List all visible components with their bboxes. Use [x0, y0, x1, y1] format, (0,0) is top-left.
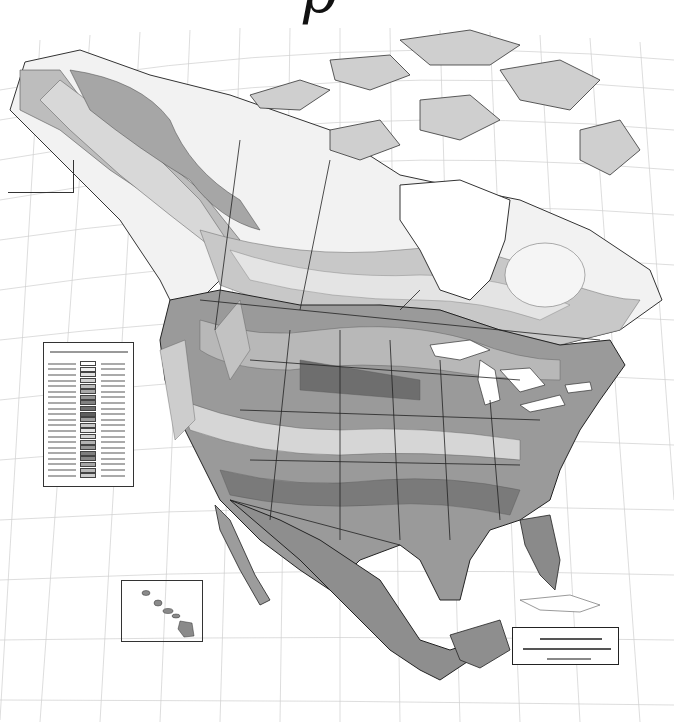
legend-temp-c [101, 441, 125, 443]
legend-temp-c [101, 396, 125, 398]
legend-temp-c [101, 458, 125, 460]
hawaii-inset [121, 580, 203, 642]
legend-temp-c [101, 463, 125, 465]
legend-temp-f [48, 469, 76, 471]
legend-swatch [80, 372, 96, 377]
legend-temp-c [101, 430, 125, 432]
legend-swatch [80, 428, 96, 433]
scale-bar [512, 627, 619, 665]
legend-temp-f [48, 436, 76, 438]
scale-bar-km [540, 638, 602, 640]
legend-swatch [80, 423, 96, 428]
legend-temp-f [48, 368, 76, 370]
legend-temp-c [101, 436, 125, 438]
legend-temp-f [48, 408, 76, 410]
legend-temp-c [101, 380, 125, 382]
legend-swatch [80, 417, 96, 422]
legend-temp-c [101, 385, 125, 387]
legend-temp-c [101, 391, 125, 393]
legend-swatch [80, 389, 96, 394]
legend-rows [48, 361, 130, 478]
legend-swatch [80, 468, 96, 473]
legend-temp-f [48, 475, 76, 477]
legend-temp-f [48, 430, 76, 432]
legend-row [48, 473, 130, 479]
legend-temp-c [101, 452, 125, 454]
legend-temp-c [101, 419, 125, 421]
legend-swatch [80, 434, 96, 439]
florida [520, 515, 560, 590]
legend-temp-f [48, 413, 76, 415]
legend-temp-c [101, 408, 125, 410]
legend-swatch [80, 451, 96, 456]
legend-temp-f [48, 463, 76, 465]
legend-temp-f [48, 363, 76, 365]
legend-temp-f [48, 441, 76, 443]
legend-temp-c [101, 469, 125, 471]
legend-swatch [80, 400, 96, 405]
legend-temp-f [48, 385, 76, 387]
legend-swatch [80, 367, 96, 372]
legend-swatch [80, 406, 96, 411]
legend-temp-c [101, 424, 125, 426]
legend-temp-f [48, 391, 76, 393]
legend-swatch [80, 384, 96, 389]
legend [43, 342, 134, 487]
legend-swatch [80, 456, 96, 461]
legend-temp-c [101, 413, 125, 415]
legend-swatch [80, 378, 96, 383]
legend-temp-f [48, 419, 76, 421]
legend-title [50, 351, 128, 353]
legend-temp-c [101, 475, 125, 477]
legend-swatch [80, 395, 96, 400]
legend-temp-f [48, 380, 76, 382]
legend-swatch [80, 445, 96, 450]
legend-swatch [80, 412, 96, 417]
legend-temp-c [101, 363, 125, 365]
legend-swatch [80, 440, 96, 445]
aleutian-inset [8, 160, 74, 193]
legend-swatch [80, 462, 96, 467]
legend-temp-c [101, 447, 125, 449]
legend-temp-c [101, 374, 125, 376]
legend-temp-f [48, 447, 76, 449]
legend-temp-f [48, 374, 76, 376]
legend-temp-f [48, 402, 76, 404]
legend-temp-f [48, 458, 76, 460]
legend-temp-c [101, 368, 125, 370]
legend-temp-f [48, 452, 76, 454]
legend-swatch [80, 361, 96, 366]
scale-bar-miles [523, 648, 611, 650]
legend-temp-f [48, 396, 76, 398]
legend-swatch [80, 473, 96, 478]
legend-temp-f [48, 424, 76, 426]
legend-temp-c [101, 402, 125, 404]
scale-caption [547, 658, 591, 660]
cuba [520, 595, 600, 612]
